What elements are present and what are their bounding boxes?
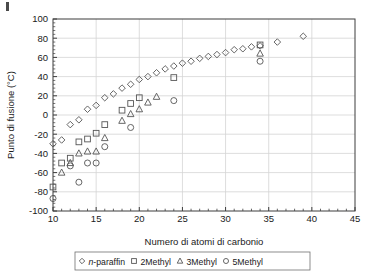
melting-point-scatter-chart: 1015202530354045 -100-80-60-40-200204060… — [0, 0, 387, 279]
data-point-square — [76, 139, 82, 145]
data-point-triangle — [145, 99, 152, 105]
x-tick-label: 15 — [91, 213, 102, 224]
data-point-circle — [128, 124, 134, 130]
x-axis-title: Numero di atomi di carbonio — [145, 236, 264, 247]
data-point-diamond — [188, 58, 195, 65]
data-point-diamond — [248, 44, 255, 51]
chart-legend: n-paraffin2Methyl3Methyl5Methyl — [75, 252, 310, 270]
data-point-square — [102, 122, 108, 128]
y-tick-label: 100 — [32, 13, 48, 24]
data-point-diamond — [214, 51, 221, 58]
series-n-paraffin — [50, 33, 307, 147]
data-point-diamond — [171, 63, 178, 70]
data-point-diamond — [274, 39, 281, 46]
data-point-triangle — [58, 169, 65, 175]
data-point-diamond — [127, 81, 134, 88]
x-axis-ticks — [53, 207, 355, 211]
data-point-diamond — [153, 69, 160, 76]
data-point-triangle — [76, 150, 83, 156]
x-tick-label: 20 — [134, 213, 145, 224]
y-axis-ticks — [53, 19, 57, 211]
series-5methyl — [50, 58, 263, 201]
data-point-triangle — [257, 50, 264, 56]
x-axis-tick-labels: 1015202530354045 — [48, 213, 361, 224]
data-point-circle — [257, 58, 263, 64]
data-point-triangle — [153, 93, 160, 99]
data-series-markers — [50, 33, 307, 202]
data-point-diamond — [84, 106, 91, 113]
x-tick-label: 40 — [307, 213, 318, 224]
figure-container: 1015202530354045 -100-80-60-40-200204060… — [0, 0, 387, 279]
y-tick-label: -80 — [34, 186, 48, 197]
data-point-square — [119, 107, 125, 113]
x-tick-label: 45 — [350, 213, 361, 224]
data-point-diamond — [231, 46, 238, 53]
data-point-circle — [171, 98, 177, 104]
data-point-diamond — [196, 55, 203, 62]
legend-label: 5Methyl — [233, 257, 263, 267]
x-tick-label: 25 — [177, 213, 188, 224]
series-2methyl — [50, 42, 263, 190]
data-point-diamond — [58, 137, 65, 144]
y-tick-label: -60 — [34, 167, 48, 178]
data-point-diamond — [240, 45, 247, 52]
y-axis-tick-labels: -100-80-60-40-20020406080100 — [29, 13, 48, 216]
data-point-square — [85, 136, 91, 142]
data-point-triangle — [127, 110, 134, 116]
data-point-circle — [102, 144, 108, 150]
y-tick-label: 80 — [37, 33, 48, 44]
y-tick-label: 40 — [37, 71, 48, 82]
data-point-square — [171, 75, 177, 81]
data-point-circle — [84, 160, 90, 166]
y-axis-title: Punto di fusione (°C) — [5, 71, 16, 159]
legend-label: 2Methyl — [141, 257, 171, 267]
data-point-circle — [76, 179, 82, 185]
y-tick-label: 20 — [37, 90, 48, 101]
x-tick-label: 35 — [263, 213, 274, 224]
y-tick-label: -20 — [34, 129, 48, 140]
data-point-square — [59, 160, 65, 166]
legend-label: n-paraffin — [89, 257, 126, 267]
x-tick-label: 30 — [220, 213, 231, 224]
y-tick-label: 0 — [43, 109, 48, 120]
legend-label: 3Methyl — [187, 257, 217, 267]
y-tick-label: 60 — [37, 52, 48, 63]
data-point-diamond — [162, 66, 169, 73]
page-corner-mark — [6, 2, 9, 11]
data-point-diamond — [76, 117, 83, 124]
y-tick-label: -100 — [29, 205, 48, 216]
x-tick-label: 10 — [48, 213, 59, 224]
data-point-triangle — [101, 134, 108, 140]
data-point-diamond — [67, 121, 74, 128]
gridlines — [53, 19, 355, 211]
data-point-diamond — [205, 53, 212, 60]
data-point-diamond — [119, 85, 126, 92]
data-point-triangle — [119, 117, 126, 123]
data-point-square — [128, 101, 134, 107]
series-3methyl — [58, 50, 263, 175]
y-tick-label: -40 — [34, 148, 48, 159]
